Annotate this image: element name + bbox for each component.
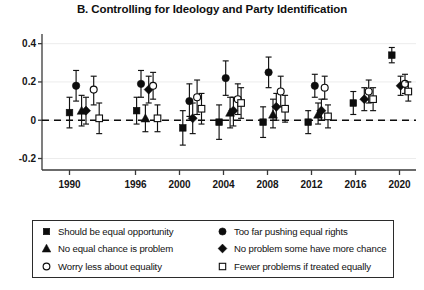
data-point [325, 113, 332, 120]
x-tick-label: 2016 [344, 179, 367, 190]
data-point [305, 119, 312, 126]
legend-label: No problem some have more chance [234, 244, 387, 254]
legend-label: Fewer problems if treated equally [234, 262, 371, 272]
x-tick-label: 1996 [124, 179, 147, 190]
x-tick-label: 2000 [168, 179, 191, 190]
legend-item[interactable]: Worry less about equality [41, 261, 217, 272]
data-point [180, 125, 187, 132]
y-tick-label: -0.2 [19, 153, 37, 164]
data-point [277, 88, 284, 95]
legend-label: No equal chance is problem [58, 244, 173, 254]
data-point [282, 105, 289, 112]
x-tick-label: 2012 [300, 179, 323, 190]
data-point [194, 94, 201, 101]
chart-title: B. Controlling for Ideology and Party Id… [0, 3, 424, 15]
y-tick-label: 0.4 [22, 38, 36, 49]
x-tick-label: 2020 [388, 179, 411, 190]
plot-area: 0.40.20-0.219901996200020042008201220162… [0, 24, 424, 206]
data-point [311, 82, 318, 89]
filled-diamond-icon [217, 243, 228, 254]
data-point [360, 95, 369, 104]
data-point [133, 107, 140, 114]
legend-item[interactable]: Fewer problems if treated equally [217, 261, 403, 272]
data-point [321, 84, 328, 91]
data-point [66, 109, 73, 116]
data-point [150, 82, 157, 89]
legend-item[interactable]: Should be equal opportunity [41, 226, 217, 237]
data-point [198, 105, 205, 112]
data-point [265, 69, 272, 76]
legend-label: Should be equal opportunity [58, 227, 173, 237]
legend-item[interactable]: No equal chance is problem [41, 243, 217, 254]
data-point [154, 115, 161, 122]
data-point [141, 114, 150, 122]
legend-label: Too far pushing equal rights [234, 227, 348, 237]
figure-panel-b: B. Controlling for Ideology and Party Id… [0, 0, 424, 290]
data-point [222, 74, 229, 81]
data-point [216, 119, 223, 126]
x-tick-label: 1990 [58, 179, 81, 190]
open-square-icon [217, 261, 228, 272]
open-circle-icon [41, 261, 52, 272]
data-point [96, 115, 103, 122]
legend: Should be equal opportunityToo far pushi… [32, 220, 394, 278]
y-tick-label: 0.2 [22, 76, 36, 87]
filled-circle-icon [217, 226, 228, 237]
data-point [137, 80, 144, 87]
data-point [370, 96, 377, 103]
data-point [405, 88, 412, 95]
series-filled-square [67, 47, 395, 145]
data-point [90, 86, 97, 93]
data-point [260, 119, 267, 126]
legend-label: Worry less about equality [58, 262, 162, 272]
x-tick-label: 2004 [212, 179, 235, 190]
y-tick-label: 0 [30, 115, 36, 126]
x-tick-label: 2008 [256, 179, 279, 190]
legend-grid: Should be equal opportunityToo far pushi… [33, 221, 393, 277]
legend-item[interactable]: Too far pushing equal rights [217, 226, 403, 237]
data-point [72, 82, 79, 89]
data-point [389, 52, 396, 59]
data-point [350, 100, 357, 107]
legend-item[interactable]: No problem some have more chance [217, 243, 403, 254]
data-point [186, 97, 193, 104]
filled-triangle-icon [41, 243, 52, 254]
data-point [238, 100, 245, 107]
data-point [365, 88, 372, 95]
filled-square-icon [41, 226, 52, 237]
scatter-plot-svg: 0.40.20-0.219901996200020042008201220162… [0, 24, 424, 206]
